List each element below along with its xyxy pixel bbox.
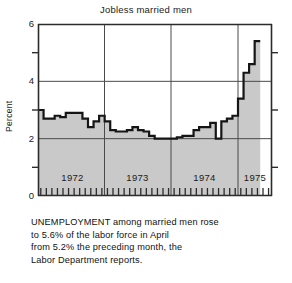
x-year-label-1973: 1973 xyxy=(115,172,160,183)
x-year-label-1972: 1972 xyxy=(50,172,95,183)
y-tick-label-6: 6 xyxy=(18,19,34,29)
caption-line-4: Labor Department reports. xyxy=(31,254,263,267)
y-tick-label-0: 0 xyxy=(18,191,34,201)
chart-figure: 6 4 2 0 1972 1973 1974 1975 xyxy=(0,0,292,210)
y-tick-label-2: 2 xyxy=(18,134,34,144)
caption-line-1: UNEMPLOYMENT among married men rose xyxy=(31,216,263,229)
x-year-label-1975: 1975 xyxy=(238,172,272,183)
caption-line-3: from 5.2% the preceding month, the xyxy=(31,241,263,254)
caption-line-2: to 5.6% of the labor force in April xyxy=(31,229,263,242)
y-tick-label-4: 4 xyxy=(18,76,34,86)
x-year-label-1974: 1974 xyxy=(182,172,227,183)
caption: UNEMPLOYMENT among married men rose to 5… xyxy=(31,216,263,266)
chart-page: Jobless married men Percent xyxy=(0,0,292,283)
